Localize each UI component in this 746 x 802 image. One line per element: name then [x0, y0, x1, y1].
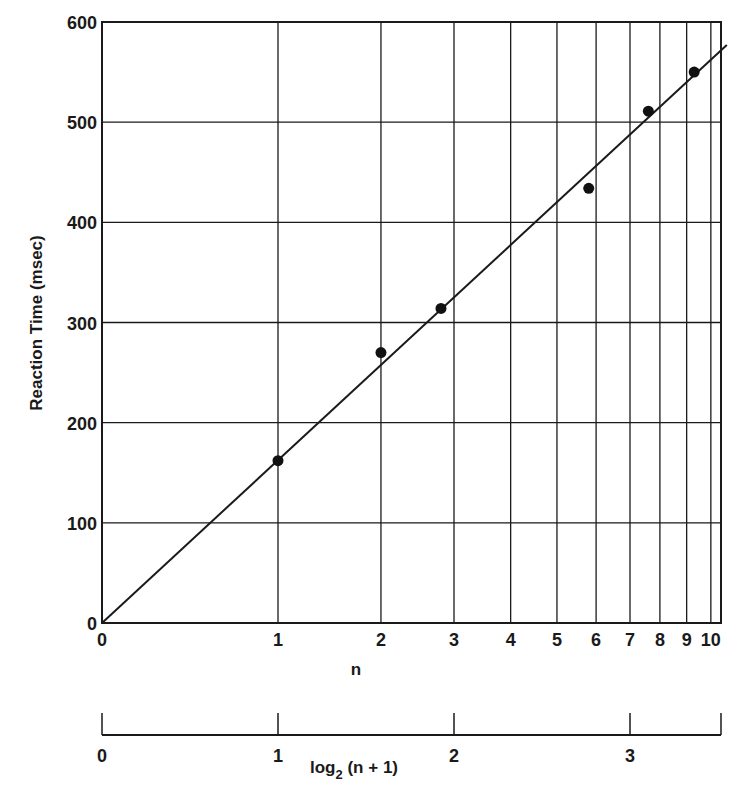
- x-axis-label-log: log2 (n + 1): [310, 758, 398, 782]
- x-tick-label-n: 1: [273, 630, 283, 650]
- log2-axis: 0123: [97, 713, 721, 766]
- x-tick-label-log: 3: [625, 746, 635, 766]
- y-tick-label: 0: [87, 614, 97, 634]
- x-tick-label-log: 2: [449, 746, 459, 766]
- x-tick-label-n: 10: [701, 630, 721, 650]
- y-tick-label: 500: [67, 113, 97, 133]
- y-tick-label: 600: [67, 13, 97, 33]
- reaction-time-chart: 0100200300400500600012345678910 0123 Rea…: [0, 0, 746, 802]
- x-tick-label-n: 3: [449, 630, 459, 650]
- y-tick-label: 100: [67, 514, 97, 534]
- data-point: [583, 183, 594, 194]
- x-tick-label-n: 4: [506, 630, 516, 650]
- regression-line: [102, 45, 727, 623]
- y-tick-label: 300: [67, 314, 97, 334]
- tick-labels: 0100200300400500600012345678910: [67, 13, 721, 650]
- data-point: [273, 455, 284, 466]
- x-tick-label-log: 1: [273, 746, 283, 766]
- y-axis-label: Reaction Time (msec): [27, 235, 46, 410]
- y-tick-label: 200: [67, 414, 97, 434]
- x-tick-label-n: 5: [552, 630, 562, 650]
- x-tick-label-n: 9: [682, 630, 692, 650]
- data-point: [643, 106, 654, 117]
- x-tick-label-n: 8: [655, 630, 665, 650]
- x-tick-label-n: 0: [97, 630, 107, 650]
- grid: [102, 22, 721, 623]
- data-point: [435, 303, 446, 314]
- x-axis-label-n: n: [351, 660, 361, 679]
- data-point: [689, 67, 700, 78]
- x-tick-label-n: 2: [376, 630, 386, 650]
- x-tick-label-n: 7: [625, 630, 635, 650]
- fit-line: [102, 45, 727, 623]
- y-tick-label: 400: [67, 213, 97, 233]
- x-tick-label-log: 0: [97, 746, 107, 766]
- x-tick-label-n: 6: [591, 630, 601, 650]
- data-point: [375, 347, 386, 358]
